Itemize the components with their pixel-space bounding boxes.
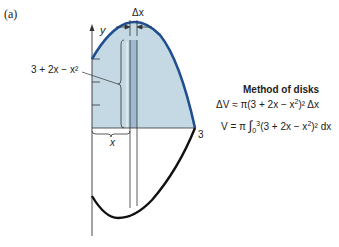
volume-integrand-b: )² dx — [311, 121, 331, 132]
delta-v-lhs: ΔV ≈ π(3 + 2x − x — [216, 99, 295, 110]
x-intercept-label: 3 — [198, 129, 204, 140]
function-label: 3 + 2x − x² — [31, 64, 78, 75]
reflected-curve — [92, 128, 195, 218]
method-title: Method of disks — [243, 84, 319, 95]
delta-x-label: Δx — [132, 7, 144, 18]
y-axis-label: y — [100, 24, 106, 36]
disk-slab — [130, 40, 137, 128]
lower-limit: 0 — [252, 127, 256, 134]
y-axis-arrow-icon — [90, 24, 95, 31]
volume-integrand-a: (3 + 2x − x — [260, 121, 307, 132]
delta-v-equation: ΔV ≈ π(3 + 2x − x2)² Δx — [216, 98, 319, 110]
volume-lhs: V = π — [221, 121, 246, 132]
delta-v-rhs: )² Δx — [298, 99, 319, 110]
panel-label: (a) — [4, 7, 17, 22]
x-distance-label: x — [110, 137, 115, 148]
volume-equation: V = π ∫03(3 + 2x − x2)² dx — [221, 118, 331, 134]
